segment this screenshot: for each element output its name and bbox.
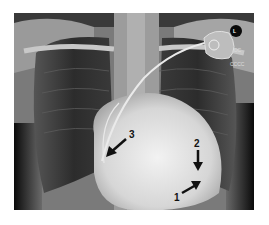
annotation-label-2: 2 <box>194 139 200 149</box>
chest-xray-image: L DC CCCC 3 2 1 <box>14 13 254 210</box>
arrow-1-icon <box>182 181 201 193</box>
annotation-label-3: 3 <box>129 130 135 140</box>
annotation-arrows <box>14 13 254 210</box>
arrow-2-icon <box>193 150 203 171</box>
annotation-label-1: 1 <box>174 193 180 203</box>
arrow-3-icon <box>106 139 126 157</box>
